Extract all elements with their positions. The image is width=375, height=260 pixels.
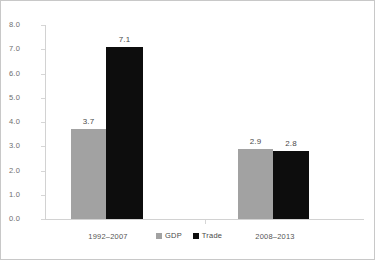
- bar-value-label: 2.8: [273, 139, 309, 148]
- bar-value-label: 3.7: [71, 117, 106, 126]
- legend-label: Trade: [202, 231, 222, 240]
- x-axis-center-tick: [205, 220, 206, 224]
- bar-gdp-2[interactable]: [238, 149, 273, 219]
- y-axis-line: [45, 25, 46, 220]
- legend-swatch-icon: [156, 233, 162, 239]
- y-tick-label: 1.0: [9, 191, 35, 199]
- y-tick-label: 8.0: [9, 21, 35, 29]
- bar-value-label: 2.9: [238, 137, 273, 146]
- category-label-1: 1992–2007: [77, 232, 139, 241]
- legend-item-gdp[interactable]: GDP: [156, 231, 182, 240]
- chart-frame: 8.07.06.05.04.03.02.01.00.0 3.77.12.92.8…: [0, 0, 375, 260]
- y-tick-label: 3.0: [9, 142, 35, 150]
- bar-trade-1[interactable]: [106, 47, 143, 219]
- legend-swatch-icon: [193, 233, 199, 239]
- y-tick-label: 0.0: [9, 215, 35, 223]
- bar-value-label: 7.1: [106, 35, 143, 44]
- plot-area: 8.07.06.05.04.03.02.01.00.0 3.77.12.92.8…: [1, 1, 375, 260]
- y-tick-label: 6.0: [9, 70, 35, 78]
- legend-item-trade[interactable]: Trade: [193, 231, 222, 240]
- y-tick-label: 5.0: [9, 94, 35, 102]
- bar-trade-2[interactable]: [273, 151, 309, 219]
- chart-legend: GDPTrade: [156, 231, 222, 240]
- category-label-2: 2008–2013: [243, 232, 307, 241]
- bar-gdp-1[interactable]: [71, 129, 106, 219]
- legend-label: GDP: [165, 231, 182, 240]
- y-tick-label: 7.0: [9, 45, 35, 53]
- y-tick-label: 2.0: [9, 167, 35, 175]
- y-tick-label: 4.0: [9, 118, 35, 126]
